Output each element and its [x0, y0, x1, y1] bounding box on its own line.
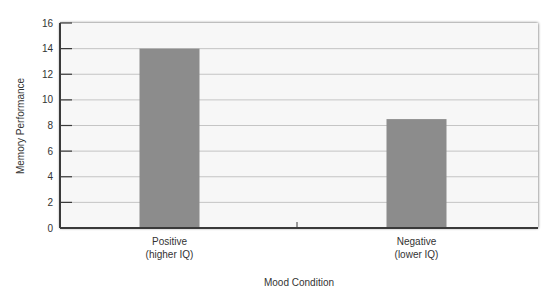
x-category-label: Negative(lower IQ): [395, 236, 439, 260]
y-tick-label: 0: [47, 223, 53, 234]
y-tick-label: 16: [42, 18, 54, 29]
x-category-label: Positive(higher IQ): [146, 236, 194, 260]
bar-chart: 0246810121416 Positive(higher IQ)Negativ…: [0, 0, 556, 296]
y-tick-labels: 0246810121416: [42, 18, 54, 234]
y-tick-label: 8: [47, 120, 53, 131]
x-category-label-line: Negative: [397, 236, 437, 247]
y-tick-label: 12: [42, 69, 54, 80]
x-category-label-line: (lower IQ): [395, 249, 439, 260]
bar-1: [140, 49, 200, 228]
y-tick-label: 2: [47, 197, 53, 208]
y-tick-label: 4: [47, 171, 53, 182]
x-axis-title: Mood Condition: [264, 277, 334, 288]
x-category-label-line: Positive: [152, 236, 187, 247]
y-axis-title: Memory Performance: [15, 77, 26, 174]
x-category-label-line: (higher IQ): [146, 249, 194, 260]
y-tick-label: 10: [42, 94, 54, 105]
bar-2: [387, 119, 447, 228]
y-tick-label: 14: [42, 43, 54, 54]
y-tick-label: 6: [47, 146, 53, 157]
x-category-labels: Positive(higher IQ)Negative(lower IQ): [146, 236, 439, 260]
